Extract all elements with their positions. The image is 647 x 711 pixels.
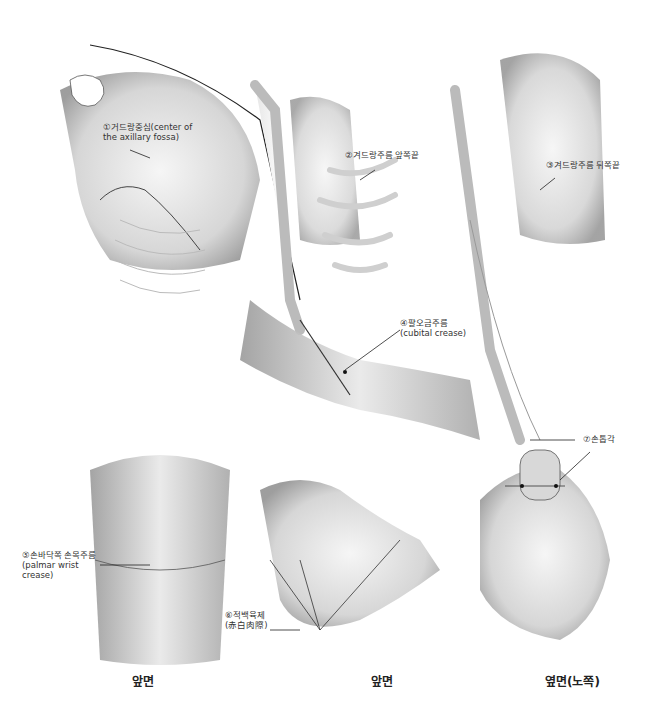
illustration-canvas bbox=[0, 0, 647, 711]
label-main: ④팔오금주름 bbox=[400, 318, 448, 328]
label-palmar-wrist-crease: ⑤손바닥쪽 손목주름 (palmar wrist crease) bbox=[22, 550, 96, 580]
panel-arm-front bbox=[240, 85, 480, 440]
label-sub: (cubital crease) bbox=[400, 328, 466, 338]
caption-middle-front: 앞면 bbox=[371, 672, 393, 689]
label-main: ①거드랑중심(center of bbox=[103, 122, 192, 132]
panel-wrist-front bbox=[90, 455, 230, 665]
label-posterior-axillary-fold: ③겨드랑주름 뒤쪽끝 bbox=[546, 160, 620, 170]
label-sub: crease) bbox=[22, 570, 96, 580]
label-cubital-crease: ④팔오금주름 (cubital crease) bbox=[400, 318, 466, 338]
panel-chest-front bbox=[60, 45, 300, 300]
panel-hand-palm bbox=[260, 480, 440, 630]
label-nail-angle: ⑦손톱각 bbox=[583, 434, 615, 444]
label-main: ⑥적백육제 bbox=[225, 610, 265, 620]
label-sub: (palmar wrist bbox=[22, 560, 96, 570]
label-sub: the axillary fossa) bbox=[103, 132, 192, 142]
caption-right-side: 옆면(노쪽) bbox=[545, 672, 600, 689]
label-anterior-axillary-fold: ②겨드랑주름 앞쪽끝 bbox=[345, 150, 419, 160]
panel-hand-thumb bbox=[480, 450, 610, 640]
label-main: ⑤손바닥쪽 손목주름 bbox=[22, 550, 96, 560]
caption-left-front: 앞면 bbox=[132, 672, 154, 689]
label-main: ⑦손톱각 bbox=[583, 434, 615, 444]
label-main: ②겨드랑주름 앞쪽끝 bbox=[345, 150, 419, 160]
label-main: ③겨드랑주름 뒤쪽끝 bbox=[546, 160, 620, 170]
label-red-white-flesh-border: ⑥적백육제 (赤白肉際) bbox=[225, 610, 268, 630]
label-sub: (赤白肉際) bbox=[225, 620, 268, 630]
label-center-axillary-fossa: ①거드랑중심(center of the axillary fossa) bbox=[103, 122, 192, 142]
panel-arm-side bbox=[455, 53, 605, 440]
